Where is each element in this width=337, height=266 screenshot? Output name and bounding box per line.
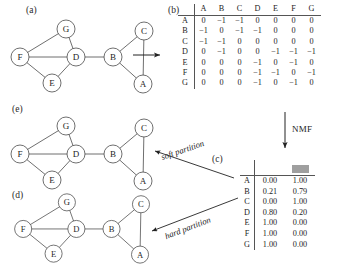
matrix-body: A 0 −1 −1 0 0 0 0 B −1 0 −1 −1 0 0 0 C	[178, 15, 321, 88]
matrix-cell: 0	[267, 58, 285, 68]
matrix-cell: −1	[249, 58, 267, 68]
matrix-cell: 0	[303, 37, 321, 47]
nmf-result-table: A 0.00 1.00 B 0.21 0.79 C 0.00 1.00 D 0.…	[240, 160, 315, 250]
nmf-row-header-G: G	[240, 240, 255, 251]
matrix-row: D 0 −1 0 0 −1 −1 −1	[178, 47, 321, 57]
matrix-row: C −1 −1 0 0 0 0 0	[178, 37, 321, 47]
node-label-E: E	[49, 78, 55, 88]
matrix-cell: 0	[267, 15, 285, 26]
matrix-col-header-D: D	[249, 4, 267, 15]
matrix-cell: 0	[285, 37, 303, 47]
nmf-cell: 1.00	[255, 240, 286, 251]
matrix-cell: −1	[231, 26, 249, 36]
soft-partition-label: soft partition	[160, 138, 205, 162]
matrix-row-header-B: B	[178, 26, 194, 36]
matrix-row: E 0 0 0 −1 0 −1 0	[178, 58, 321, 68]
node-label-F: F	[17, 52, 22, 62]
nmf-header-row	[240, 160, 315, 176]
matrix-col-header-A: A	[194, 4, 213, 15]
nmf-col-swatch-1	[255, 160, 286, 176]
matrix-header-row: A B C D E F G	[178, 4, 321, 15]
matrix-cell: −1	[285, 58, 303, 68]
matrix-cell: 0	[285, 26, 303, 36]
nmf-arrow-label: NMF	[292, 124, 312, 134]
graph-panel-a: G F D E B C A	[6, 16, 161, 96]
node-label-D: D	[73, 149, 80, 159]
node-label-A: A	[137, 250, 144, 260]
matrix-cell: 0	[249, 15, 267, 26]
node-label-A: A	[140, 176, 147, 186]
nmf-col-swatch-2	[285, 160, 315, 176]
matrix-row-header-F: F	[178, 68, 194, 78]
nmf-cell: 1.00	[285, 176, 315, 187]
matrix-cell: −1	[285, 78, 303, 88]
matrix-cell: 0	[213, 78, 231, 88]
matrix-cell: 0	[231, 47, 249, 57]
matrix-col-header-B: B	[213, 4, 231, 15]
node-label-D: D	[73, 224, 79, 234]
nmf-row-header-C: C	[240, 197, 255, 208]
nmf-cell: 0.00	[255, 176, 286, 187]
nmf-cell: 1.00	[255, 229, 286, 240]
matrix-row: A 0 −1 −1 0 0 0 0	[178, 15, 321, 26]
matrix-cell: 0	[194, 58, 213, 68]
nmf-row: G 1.00 0.00	[240, 240, 315, 251]
cluster-swatch-blank	[262, 165, 279, 173]
node-label-C: C	[141, 123, 147, 133]
matrix-cell: 0	[194, 68, 213, 78]
matrix-cell: 0	[194, 15, 213, 26]
graph-svg-d: G F D E B C A	[6, 190, 161, 266]
matrix-cell: 0	[303, 15, 321, 26]
nmf-row: E 1.00 0.00	[240, 218, 315, 229]
nmf-cell: 0.00	[255, 197, 286, 208]
nmf-cell: 0.80	[255, 208, 286, 219]
matrix-cell: −1	[267, 47, 285, 57]
nmf-row-header-E: E	[240, 218, 255, 229]
matrix-cell: 0	[213, 68, 231, 78]
graph-svg-a: G F D E B C A	[6, 16, 161, 96]
node-label-E: E	[51, 249, 56, 259]
matrix-cell: −1	[249, 68, 267, 78]
matrix-cell: −1	[249, 78, 267, 88]
nmf-corner	[240, 160, 255, 176]
matrix-cell: 0	[213, 26, 231, 36]
matrix-cell: 0	[303, 58, 321, 68]
matrix-cell: 0	[231, 58, 249, 68]
node-label-C: C	[141, 26, 147, 36]
cluster-swatch-gray	[292, 165, 309, 173]
matrix-col-header-G: G	[303, 4, 321, 15]
matrix-col-header-E: E	[267, 4, 285, 15]
hard-partition-label: hard partition	[163, 214, 212, 241]
nmf-cell: 0.00	[285, 229, 315, 240]
nmf-row: B 0.21 0.79	[240, 187, 315, 198]
matrix-corner	[178, 4, 194, 15]
node-label-B: B	[110, 149, 116, 159]
node-label-E: E	[49, 175, 55, 185]
node-label-F: F	[21, 224, 26, 234]
matrix-cell: 0	[267, 26, 285, 36]
matrix-cell: −1	[249, 26, 267, 36]
node-label-B: B	[110, 52, 116, 62]
matrix-cell: 0	[194, 78, 213, 88]
matrix-cell: −1	[285, 47, 303, 57]
matrix-cell: 0	[194, 47, 213, 57]
nmf-row: F 1.00 0.00	[240, 229, 315, 240]
matrix-col-header-C: C	[231, 4, 249, 15]
nmf-cell: 0.00	[285, 240, 315, 251]
matrix-cell: −1	[231, 15, 249, 26]
matrix-cell: −1	[303, 47, 321, 57]
matrix-row: F 0 0 0 −1 −1 0 −1	[178, 68, 321, 78]
node-label-G: G	[63, 24, 70, 34]
node-label-C: C	[138, 199, 144, 209]
matrix-cell: 0	[213, 58, 231, 68]
nmf-row-header-F: F	[240, 229, 255, 240]
matrix-cell: 0	[285, 15, 303, 26]
nmf-row: C 0.00 1.00	[240, 197, 315, 208]
graph-panel-e: G F D E B C A	[6, 113, 161, 193]
nmf-cell: 0.20	[285, 208, 315, 219]
nmf-row-header-B: B	[240, 187, 255, 198]
nmf-cell: 1.00	[285, 197, 315, 208]
nmf-row-header-A: A	[240, 176, 255, 187]
matrix-cell: −1	[303, 68, 321, 78]
matrix-row-header-E: E	[178, 58, 194, 68]
